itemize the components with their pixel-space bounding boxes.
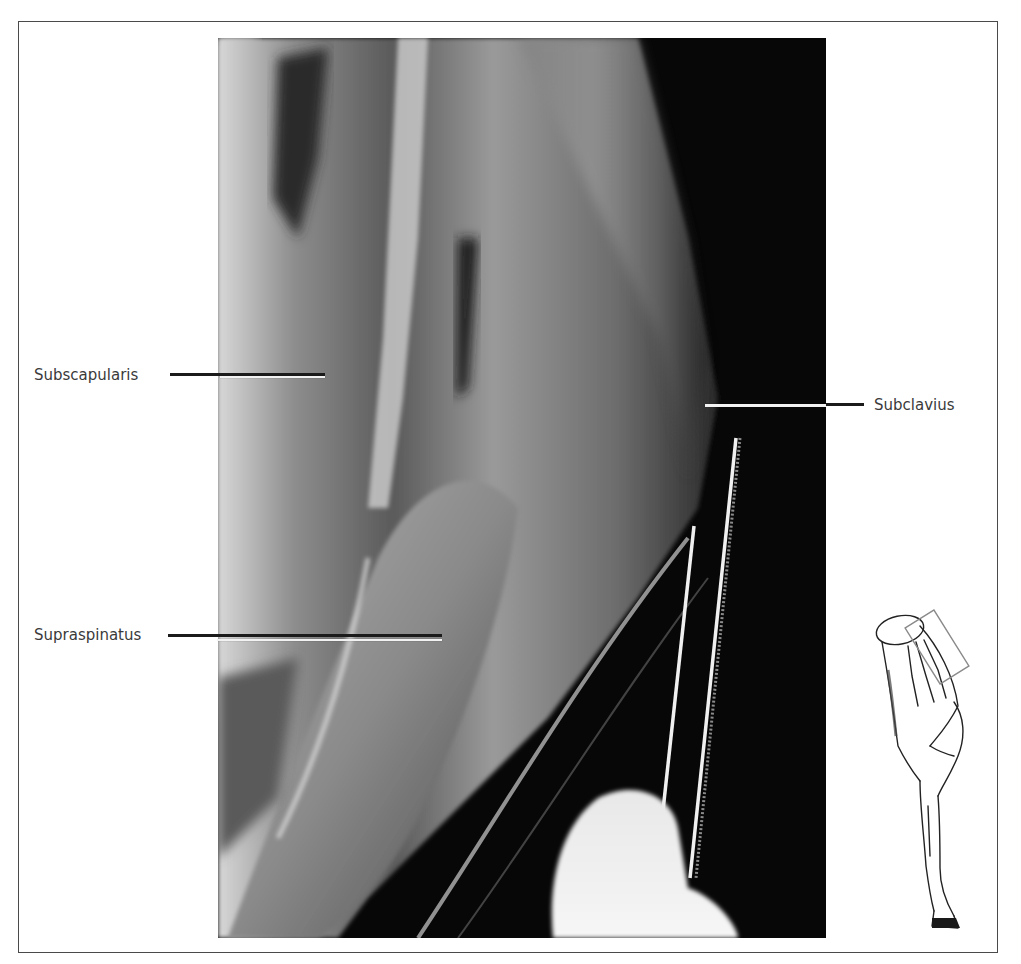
leader-line-subscapularis-highlight [220,376,325,378]
leader-line-supraspinatus-highlight [218,639,442,641]
dissection-photo [218,38,826,938]
leader-line-subclavius [826,403,864,406]
label-supraspinatus: Supraspinatus [34,626,141,644]
label-subscapularis: Subscapularis [34,366,138,384]
orientation-inset-drawing [868,606,998,946]
forelimb-outline-icon [868,606,998,946]
leader-line-supraspinatus [168,634,442,637]
leader-line-subclavius-highlight [705,404,826,407]
label-subclavius: Subclavius [874,396,955,414]
